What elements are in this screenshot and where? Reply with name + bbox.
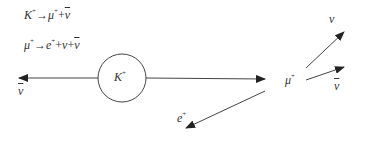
- eq1-antineutrino: ν: [65, 8, 70, 22]
- eq2-antineutrino: ν: [74, 38, 79, 52]
- antineutrino-left-label: ν: [18, 84, 23, 99]
- antineutrino-right-label: ν: [334, 79, 339, 94]
- muon-label: μ+: [285, 72, 295, 88]
- kaon-label: K+: [114, 69, 126, 85]
- positron-charge: +: [182, 110, 186, 118]
- positron-arrow: [186, 91, 265, 128]
- eq2-arrow: →: [34, 38, 46, 52]
- neutrino-label: ν: [329, 12, 334, 27]
- eq1-kaon: K: [24, 8, 32, 22]
- kaon-symbol: K: [114, 70, 122, 84]
- muon-path-arrow: [146, 78, 265, 79]
- muon-charge: +: [291, 72, 295, 80]
- eq1-plus: +: [58, 8, 65, 22]
- kaon-decay-equation: K+→μ++ν: [24, 7, 70, 23]
- positron-label: e+: [177, 110, 186, 126]
- neutrino-arrow: [306, 32, 344, 68]
- muon-decay-equation: μ+→e++ν+ν: [24, 37, 79, 53]
- kaon-charge: +: [122, 69, 126, 77]
- eq1-arrow: →: [36, 8, 48, 22]
